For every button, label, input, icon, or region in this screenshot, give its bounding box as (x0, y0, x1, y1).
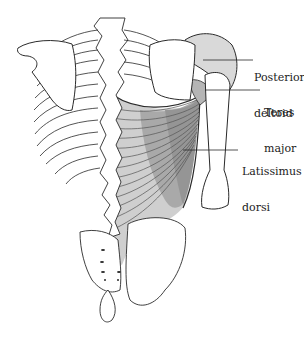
right-scapula (149, 40, 195, 100)
humerus (202, 72, 230, 209)
anatomy-diagram: Posterior deltoid Teres major Latissimus… (0, 0, 304, 340)
label-teres-major-line1: Teres (264, 107, 296, 119)
label-latissimus-dorsi-line1: Latissimus (242, 166, 302, 178)
pelvis (80, 218, 186, 322)
label-latissimus-dorsi-line2: dorsi (242, 202, 302, 214)
label-latissimus-dorsi: Latissimus dorsi (242, 142, 302, 238)
left-scapula (17, 41, 75, 111)
